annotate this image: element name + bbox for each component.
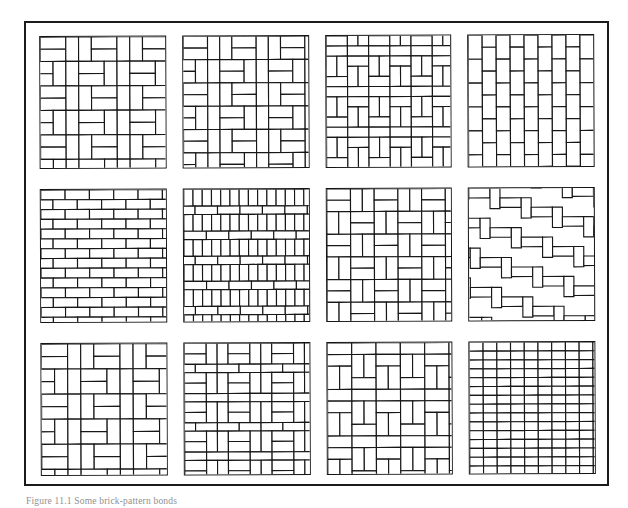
page-canvas: Figure 11.1 Some brick-pattern bonds (0, 0, 628, 508)
panel-herringbone (468, 187, 595, 321)
pattern-basketweave-double (40, 37, 165, 169)
pattern-basketweave-banded (184, 343, 309, 475)
pattern-basketweave-square (326, 189, 451, 321)
pattern-stretcher-soldier (184, 189, 309, 321)
panel-stretcher-soldier-courses (183, 188, 310, 322)
pattern-basketweave-pinwheel (183, 36, 308, 168)
panel-basketweave-square (325, 188, 452, 322)
panel-basketweave-dense (325, 34, 452, 168)
panel-basketweave-double-offset (39, 36, 166, 170)
pattern-running-bond-vertical (468, 35, 593, 167)
panel-stack-bond (469, 341, 596, 475)
pattern-basketweave-alternating (327, 342, 452, 474)
plate-inner (25, 22, 608, 485)
panel-basketweave-pinwheel (182, 35, 309, 169)
pattern-basketweave-staggered (41, 343, 166, 475)
pattern-running-bond-horizontal (41, 190, 166, 322)
panel-running-bond-vertical (467, 34, 594, 168)
plate-frame (24, 21, 609, 486)
pattern-stack-bond (470, 342, 595, 474)
panel-basketweave-alternating (326, 341, 453, 475)
panel-basketweave-banded (183, 342, 310, 476)
panel-grid (39, 34, 596, 476)
figure-caption: Figure 11.1 Some brick-pattern bonds (26, 496, 177, 507)
panel-running-bond-horizontal (40, 189, 167, 323)
panel-basketweave-staggered (40, 342, 167, 476)
pattern-basketweave-dense (326, 35, 451, 167)
pattern-herringbone (469, 188, 594, 320)
